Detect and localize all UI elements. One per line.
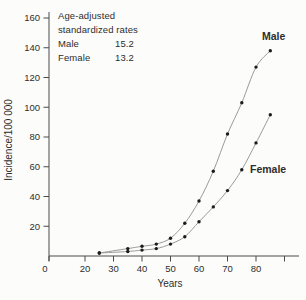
chart-svg: 20406080100120140160 020304050607080 Inc… [0,0,306,300]
female-data-point [155,247,158,250]
x-tick-label: 60 [194,263,205,274]
female-data-point [98,251,101,254]
female-data-point [140,248,143,251]
series-curves [98,49,272,255]
y-tick-label: 80 [29,131,40,142]
y-axis-ticks: 20406080100120140160 [24,12,49,231]
y-tick-label: 100 [24,102,40,113]
male-data-point [183,222,186,225]
male-data-point [140,245,143,248]
legend-line-2: standardized rates [58,23,138,37]
female-data-point [254,141,257,144]
male-data-point [126,247,129,250]
male-series-label: Male [262,30,286,42]
male-data-point [155,242,158,245]
x-tick-label: 50 [165,263,176,274]
legend-row-male: Male 15.2 [58,37,138,51]
female-data-point [169,242,172,245]
y-tick-label: 60 [29,161,40,172]
male-data-point [254,65,257,68]
legend-line-1: Age-adjusted [58,9,138,23]
legend-male-label: Male [58,37,115,51]
female-data-point [226,189,229,192]
male-data-point [169,237,172,240]
male-data-point [197,199,200,202]
female-data-point [197,220,200,223]
female-series-label: Female [250,163,286,175]
legend-row-female: Female 13.2 [58,51,138,65]
legend-female-label: Female [58,51,115,65]
incidence-by-age-chart: 20406080100120140160 020304050607080 Inc… [0,0,306,300]
legend-male-value: 15.2 [115,37,134,51]
y-tick-label: 140 [24,42,40,53]
y-axis-title: Incidence/100 000 [3,99,14,181]
x-tick-label: 80 [251,263,262,274]
female-curve [99,115,270,253]
x-tick-label: 30 [108,263,119,274]
y-tick-label: 120 [24,72,40,83]
y-tick-label: 40 [29,191,40,202]
female-data-point [269,113,272,116]
female-data-point [126,250,129,253]
y-tick-label: 20 [29,221,40,232]
male-data-point [226,132,229,135]
x-axis-ticks: 020304050607080 [42,256,284,274]
male-data-point [212,170,215,173]
x-tick-label: 70 [222,263,233,274]
x-axis-title: Years [157,278,182,289]
legend-female-value: 13.2 [115,51,134,65]
male-data-point [269,49,272,52]
x-tick-label: 20 [80,263,91,274]
male-data-point [240,101,243,104]
female-data-point [240,168,243,171]
female-data-point [183,235,186,238]
female-data-point [212,205,215,208]
x-tick-label: 0 [42,263,47,274]
legend: Age-adjusted standardized rates Male 15.… [58,9,138,65]
x-tick-label: 40 [137,263,148,274]
y-tick-label: 160 [24,12,40,23]
